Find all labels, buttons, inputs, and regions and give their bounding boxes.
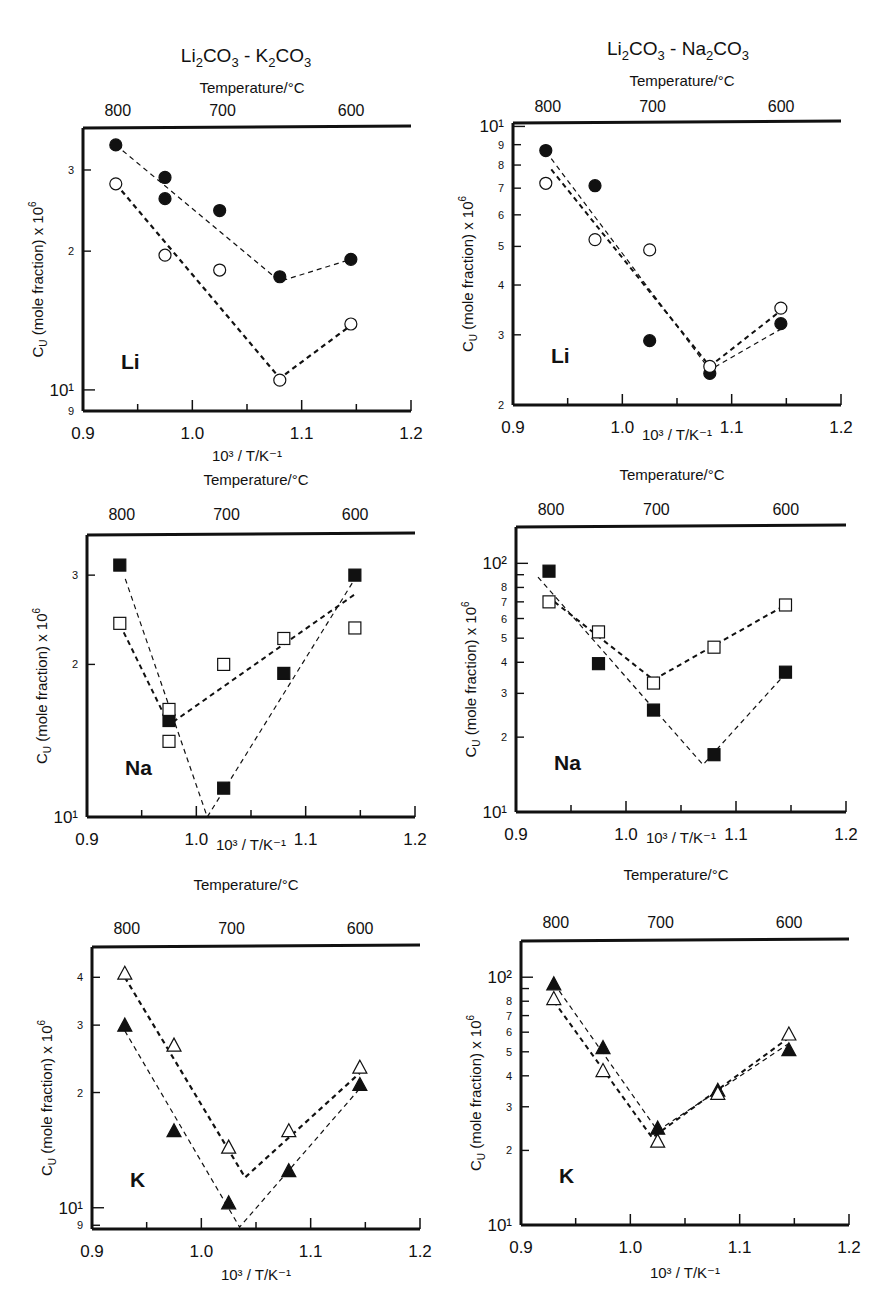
fit-line-filled [559, 991, 789, 1131]
x-tick-label: 1.2 [837, 1238, 861, 1257]
y-tick-label: 5 [506, 1046, 512, 1058]
y-tick-label: 10² [487, 968, 512, 987]
y-tick-label: 3 [506, 1101, 512, 1113]
data-point-filled [651, 1121, 665, 1134]
y-tick-label: 2 [506, 1144, 512, 1156]
data-point-filled [596, 1041, 610, 1054]
panel-label: K [559, 1164, 574, 1187]
x-tick-label: 1.1 [728, 1238, 752, 1257]
data-point-filled [547, 977, 561, 990]
data-point-open [547, 992, 561, 1005]
y-tick-label: 10¹ [487, 1216, 512, 1235]
y-tick-label: 7 [506, 1010, 512, 1022]
x-tick-label: 0.9 [509, 1238, 533, 1257]
y-tick-label: 6 [506, 1026, 512, 1038]
data-point-filled [782, 1043, 796, 1056]
y-axis-label: CU (mole fraction) x 106 [465, 1014, 487, 1171]
top-axis-line [521, 939, 849, 941]
top-tick-label: 800 [542, 914, 569, 931]
data-point-open [596, 1064, 610, 1077]
data-point-open [782, 1027, 796, 1040]
top-tick-label: 700 [647, 914, 674, 931]
top-tick-label: 600 [776, 914, 803, 931]
x-axis-label: 10³ / T/K⁻¹ [650, 1264, 720, 1281]
y-tick-label: 4 [506, 1070, 512, 1082]
x-tick-label: 1.0 [619, 1238, 643, 1257]
y-tick-label: 8 [506, 995, 512, 1007]
chart-k-na2co3: 0.91.01.11.210³ / T/K⁻¹80070060010¹23456… [0, 0, 885, 1312]
data-point-open [651, 1134, 665, 1147]
fit-line-open [554, 1001, 789, 1138]
